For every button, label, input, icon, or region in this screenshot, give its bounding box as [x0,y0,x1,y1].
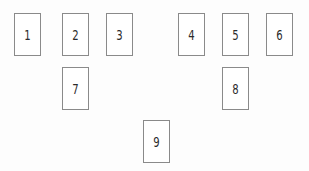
numbered-box-5[interactable]: 5 [222,13,249,56]
numbered-box-2[interactable]: 2 [62,13,89,56]
box-label: 9 [153,135,159,149]
box-label: 3 [116,28,122,42]
box-label: 8 [232,82,238,96]
numbered-box-7[interactable]: 7 [62,67,89,110]
box-label: 7 [72,82,78,96]
box-label: 5 [232,28,238,42]
diagram-canvas: 1 2 3 4 5 6 7 8 9 [0,0,309,171]
numbered-box-1[interactable]: 1 [14,13,41,56]
numbered-box-8[interactable]: 8 [222,67,249,110]
numbered-box-9[interactable]: 9 [143,120,170,163]
numbered-box-6[interactable]: 6 [266,13,293,56]
box-label: 2 [72,28,78,42]
numbered-box-4[interactable]: 4 [178,13,205,56]
numbered-box-3[interactable]: 3 [106,13,133,56]
box-label: 1 [24,28,30,42]
box-label: 6 [276,28,282,42]
box-label: 4 [188,28,194,42]
